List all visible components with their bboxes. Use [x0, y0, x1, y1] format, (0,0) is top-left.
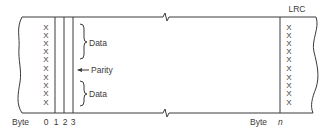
byte-index-3: 3 [71, 117, 76, 127]
svg-text:X: X [43, 89, 49, 98]
left-wavy-edge [18, 17, 22, 113]
svg-text:X: X [43, 98, 49, 107]
parity-label: Parity [91, 65, 113, 75]
right-wavy-edge [312, 17, 318, 113]
parity-arrow-icon [77, 68, 82, 72]
data-label-bottom: Data [89, 89, 107, 99]
byte-label-left: Byte [12, 117, 29, 127]
svg-text:X: X [43, 64, 49, 73]
byte-label-right: Byte [250, 117, 267, 127]
byte-0-bits: X X X X X X X X X X [43, 23, 49, 107]
lrc-diagram: X X X X X X X X X X X X X X X X X X X X … [0, 0, 334, 134]
bottom-border-left [22, 109, 169, 117]
svg-text:X: X [286, 89, 292, 98]
data-brace-top [80, 24, 87, 59]
data-label-top: Data [89, 38, 107, 48]
top-border-left [22, 13, 169, 21]
svg-text:X: X [286, 64, 292, 73]
byte-index-2: 2 [63, 117, 68, 127]
lrc-header: LRC [288, 4, 305, 14]
svg-text:X: X [286, 98, 292, 107]
svg-text:X: X [286, 55, 292, 64]
svg-text:X: X [43, 55, 49, 64]
data-brace-bottom [80, 81, 87, 106]
lrc-bits: X X X X X X X X X X [286, 23, 292, 107]
byte-index-0: 0 [44, 117, 49, 127]
byte-index-n: n [278, 117, 283, 127]
byte-index-1: 1 [54, 117, 59, 127]
